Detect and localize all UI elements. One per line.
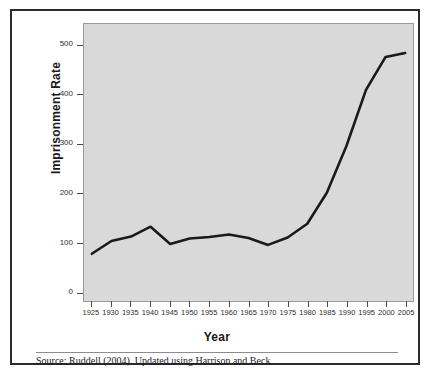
x-axis: 1925193019351940194519501955196019651970… [12,308,422,326]
x-tick-mark [288,301,289,307]
x-axis-title: Year [12,330,422,344]
x-tick-mark [209,301,210,307]
series-line-imprisonment-rate [84,24,413,301]
x-tick-mark [249,301,250,307]
x-tick-mark [91,301,92,307]
source-divider [36,352,398,353]
x-tick-mark [170,301,171,307]
y-tick-mark [77,243,83,244]
x-tick-mark [150,301,151,307]
x-tick-mark [111,301,112,307]
x-tick-mark [327,301,328,307]
y-tick-label: 0 [13,287,83,299]
x-tick-mark [308,301,309,307]
y-tick-mark [77,144,83,145]
x-tick-label: 2005 [386,308,426,317]
y-tick-mark [77,94,83,95]
x-tick-mark [386,301,387,307]
y-axis-title: Imprisonment Rate [49,0,63,238]
y-tick-label: 200 [13,188,83,200]
y-tick-label: 100 [13,238,83,250]
x-tick-mark [268,301,269,307]
y-tick-mark [77,45,83,46]
x-tick-mark [347,301,348,307]
y-tick-label: 500 [13,39,83,51]
figure-frame: 0100200300400500 19251930193519401945195… [10,9,420,365]
y-tick-mark [77,193,83,194]
y-tick-label: 300 [13,138,83,150]
source-note: Source: Ruddell (2004). Updated using Ha… [36,355,406,366]
x-tick-mark [189,301,190,307]
x-tick-mark [229,301,230,307]
x-tick-mark [130,301,131,307]
plot-area [83,23,414,302]
y-axis: 0100200300400500 [12,11,83,311]
y-tick-label: 400 [13,89,83,101]
x-tick-mark [406,301,407,307]
y-tick-mark [77,293,83,294]
x-tick-mark [367,301,368,307]
